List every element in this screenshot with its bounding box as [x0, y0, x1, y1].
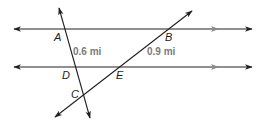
point-label-d: D: [62, 69, 70, 81]
transversal-bec: [55, 11, 192, 117]
diagram-canvas: A B D E C 0.6 mi 0.9 mi: [0, 0, 263, 125]
geometry-diagram: A B D E C 0.6 mi 0.9 mi: [0, 0, 263, 125]
point-label-b: B: [165, 31, 172, 43]
point-label-e: E: [116, 69, 124, 81]
measure-be: 0.9 mi: [147, 46, 176, 57]
bottom-parallel-line: [14, 64, 252, 70]
top-parallel-line: [14, 26, 252, 32]
point-label-a: A: [53, 31, 61, 43]
measure-ad: 0.6 mi: [73, 46, 102, 57]
point-label-c: C: [71, 88, 79, 100]
